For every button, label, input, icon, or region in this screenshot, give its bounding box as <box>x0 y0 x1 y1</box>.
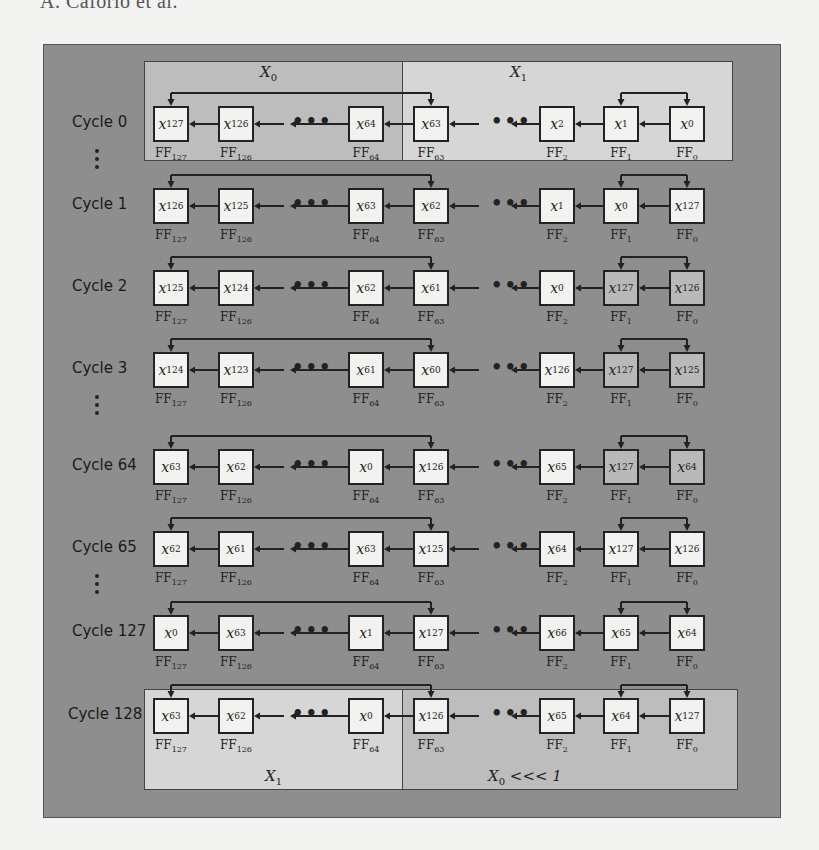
flip-flop-cell: x0 <box>153 615 189 651</box>
flip-flop-label: FF2 <box>532 738 582 754</box>
flip-flop-cell: x126 <box>669 531 705 567</box>
flip-flop-cell: x64 <box>669 615 705 651</box>
flip-flop-cell: x127 <box>603 270 639 306</box>
flip-flop-cell: x64 <box>539 531 575 567</box>
flip-flop-cell: x127 <box>413 615 449 651</box>
cycle-label: Cycle 64 <box>72 456 137 474</box>
cycle-label: Cycle 3 <box>72 359 127 377</box>
flip-flop-label: FF2 <box>532 146 582 162</box>
flip-flop-label: FF63 <box>406 392 456 408</box>
flip-flop-cell: x0 <box>348 698 384 734</box>
flip-flop-label: FF63 <box>406 310 456 326</box>
flip-flop-cell: x125 <box>669 352 705 388</box>
flip-flop-cell: x63 <box>348 188 384 224</box>
flip-flop-cell: x65 <box>539 449 575 485</box>
flip-flop-label: FF1 <box>596 146 646 162</box>
flip-flop-label: FF63 <box>406 228 456 244</box>
flip-flop-label: FF64 <box>341 392 391 408</box>
flip-flop-label: FF64 <box>341 146 391 162</box>
vertical-ellipsis-icon <box>95 571 101 598</box>
flip-flop-cell: x127 <box>603 352 639 388</box>
horizontal-ellipsis-icon: ••• <box>292 702 333 723</box>
vertical-ellipsis-icon <box>95 146 101 173</box>
flip-flop-cell: x62 <box>348 270 384 306</box>
flip-flop-cell: x65 <box>539 698 575 734</box>
flip-flop-label: FF0 <box>662 228 712 244</box>
flip-flop-cell: x1 <box>348 615 384 651</box>
flip-flop-cell: x61 <box>348 352 384 388</box>
flip-flop-label: FF2 <box>532 571 582 587</box>
flip-flop-cell: x0 <box>539 270 575 306</box>
flip-flop-cell: x62 <box>153 531 189 567</box>
flip-flop-label: FF0 <box>662 571 712 587</box>
flip-flop-label: FF63 <box>406 146 456 162</box>
flip-flop-cell: x61 <box>413 270 449 306</box>
flip-flop-cell: x126 <box>413 698 449 734</box>
flip-flop-cell: x124 <box>218 270 254 306</box>
flip-flop-label: FF63 <box>406 738 456 754</box>
flip-flop-cell: x125 <box>153 270 189 306</box>
flip-flop-cell: x126 <box>218 106 254 142</box>
flip-flop-cell: x64 <box>603 698 639 734</box>
horizontal-ellipsis-icon: ••• <box>491 110 532 131</box>
flip-flop-label: FF127 <box>146 738 196 754</box>
flip-flop-label: FF1 <box>596 310 646 326</box>
flip-flop-label: FF126 <box>211 738 261 754</box>
flip-flop-cell: x63 <box>413 106 449 142</box>
flip-flop-label: FF2 <box>532 392 582 408</box>
flip-flop-cell: x62 <box>218 449 254 485</box>
flip-flop-cell: x64 <box>669 449 705 485</box>
horizontal-ellipsis-icon: ••• <box>292 192 333 213</box>
flip-flop-label: FF2 <box>532 489 582 505</box>
flip-flop-label: FF127 <box>146 655 196 671</box>
flip-flop-label: FF126 <box>211 489 261 505</box>
flip-flop-label: FF64 <box>341 228 391 244</box>
flip-flop-cell: x64 <box>348 106 384 142</box>
flip-flop-cell: x62 <box>413 188 449 224</box>
flip-flop-label: FF126 <box>211 146 261 162</box>
flip-flop-label: FF64 <box>341 738 391 754</box>
flip-flop-label: FF1 <box>596 489 646 505</box>
cycle-label: Cycle 128 <box>68 705 142 723</box>
horizontal-ellipsis-icon: ••• <box>491 453 532 474</box>
flip-flop-label: FF0 <box>662 146 712 162</box>
flip-flop-cell: x0 <box>669 106 705 142</box>
flip-flop-cell: x126 <box>539 352 575 388</box>
flip-flop-cell: x123 <box>218 352 254 388</box>
flip-flop-cell: x126 <box>413 449 449 485</box>
flip-flop-label: FF0 <box>662 392 712 408</box>
flip-flop-label: FF0 <box>662 310 712 326</box>
flip-flop-label: FF126 <box>211 655 261 671</box>
horizontal-ellipsis-icon: ••• <box>491 274 532 295</box>
flip-flop-cell: x124 <box>153 352 189 388</box>
flip-flop-cell: x0 <box>348 449 384 485</box>
flip-flop-label: FF1 <box>596 655 646 671</box>
flip-flop-label: FF1 <box>596 392 646 408</box>
flip-flop-cell: x61 <box>218 531 254 567</box>
horizontal-ellipsis-icon: ••• <box>292 356 333 377</box>
flip-flop-label: FF63 <box>406 655 456 671</box>
flip-flop-cell: x1 <box>603 106 639 142</box>
flip-flop-cell: x126 <box>669 270 705 306</box>
flip-flop-cell: x2 <box>539 106 575 142</box>
flip-flop-cell: x127 <box>153 106 189 142</box>
cycle-label: Cycle 1 <box>72 195 127 213</box>
flip-flop-cell: x126 <box>153 188 189 224</box>
flip-flop-label: FF2 <box>532 228 582 244</box>
flip-flop-cell: x125 <box>218 188 254 224</box>
cycle-label: Cycle 2 <box>72 277 127 295</box>
horizontal-ellipsis-icon: ••• <box>292 535 333 556</box>
flip-flop-cell: x62 <box>218 698 254 734</box>
horizontal-ellipsis-icon: ••• <box>491 192 532 213</box>
flip-flop-label: FF64 <box>341 655 391 671</box>
flip-flop-label: FF2 <box>532 655 582 671</box>
flip-flop-cell: x63 <box>153 698 189 734</box>
cycle-label: Cycle 65 <box>72 538 137 556</box>
flip-flop-label: FF127 <box>146 571 196 587</box>
flip-flop-label: FF0 <box>662 655 712 671</box>
flip-flop-label: FF64 <box>341 310 391 326</box>
cycle-label: Cycle 0 <box>72 113 127 131</box>
flip-flop-label: FF64 <box>341 489 391 505</box>
flip-flop-cell: x0 <box>603 188 639 224</box>
horizontal-ellipsis-icon: ••• <box>491 619 532 640</box>
